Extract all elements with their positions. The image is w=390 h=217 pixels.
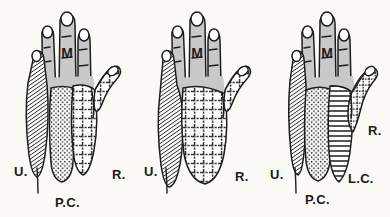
region-label-radial-right: R. (368, 124, 382, 137)
region-label-ulnar-left: U. (14, 165, 28, 178)
panel-middle-drawing: M (130, 0, 260, 217)
region-label-ulnar-right: U. (270, 168, 284, 181)
panel-left-drawing: M (0, 0, 130, 217)
median-label-right: M (321, 45, 333, 61)
region-label-palmar-cutaneous-left: P.C. (55, 196, 80, 209)
hand-nerve-territory-figure: M U. P.C. R. (0, 0, 390, 217)
region-label-radial-left: R. (112, 168, 126, 181)
region-label-ulnar-middle: U. (144, 165, 158, 178)
panel-left: M U. P.C. R. (0, 0, 130, 217)
region-label-radial-middle: R. (235, 170, 249, 183)
region-label-lateral-cutaneous-right: L.C. (348, 172, 374, 185)
panel-right: M U. P.C. L.C. R. (260, 0, 390, 217)
panel-middle: M U. R. (130, 0, 260, 217)
median-label-left: M (61, 45, 73, 61)
median-label-middle: M (191, 45, 203, 61)
region-label-palmar-cutaneous-right: P.C. (305, 193, 330, 206)
